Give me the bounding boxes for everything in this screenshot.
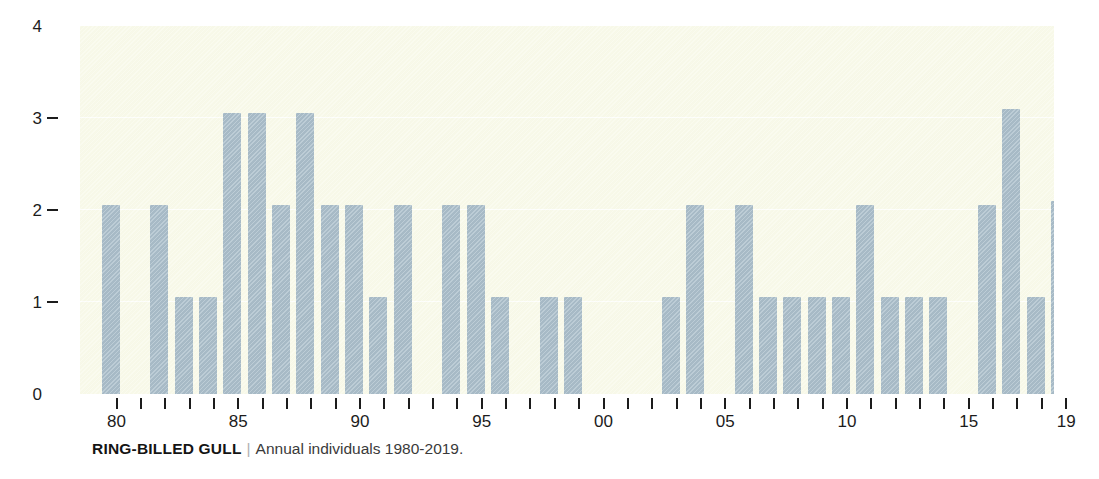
x-tick-mark-1985 — [237, 398, 239, 409]
bar-2010 — [832, 297, 850, 394]
bar-2012 — [881, 297, 899, 394]
x-tick-mark-1987 — [286, 398, 288, 409]
bar-1992 — [394, 205, 412, 394]
y-tick-label-0: 0 — [33, 386, 42, 403]
bar-1989 — [321, 205, 339, 394]
caption-separator: | — [242, 440, 256, 457]
x-tick-mark-2003 — [676, 398, 678, 409]
x-tick-mark-2000 — [603, 398, 605, 409]
bar-1982 — [150, 205, 168, 394]
bar-2009 — [808, 297, 826, 394]
x-tick-mark-1999 — [578, 398, 580, 409]
chart-caption: RING-BILLED GULL|Annual individuals 1980… — [92, 440, 463, 459]
x-tick-label-1995: 95 — [472, 413, 491, 430]
x-tick-mark-2008 — [797, 398, 799, 409]
x-tick-mark-1981 — [140, 398, 142, 409]
x-tick-label-2005: 05 — [716, 413, 735, 430]
bar-2008 — [783, 297, 801, 394]
x-tick-mark-2009 — [822, 398, 824, 409]
bar-2014 — [929, 297, 947, 394]
x-tick-mark-1988 — [310, 398, 312, 409]
x-tick-mark-2019 — [1065, 398, 1067, 409]
x-tick-mark-2015 — [968, 398, 970, 409]
bar-2003 — [662, 297, 680, 394]
x-tick-label-2019: 19 — [1057, 413, 1076, 430]
bar-2013 — [905, 297, 923, 394]
x-tick-mark-2013 — [919, 398, 921, 409]
bar-2006 — [735, 205, 753, 394]
chart-figure: 01234 808590950005101519 RING-BILLED GUL… — [0, 0, 1099, 479]
x-tick-mark-2002 — [651, 398, 653, 409]
x-tick-label-1990: 90 — [351, 413, 370, 430]
x-tick-mark-2005 — [724, 398, 726, 409]
x-tick-mark-1984 — [213, 398, 215, 409]
x-tick-mark-1994 — [456, 398, 458, 409]
x-tick-mark-2017 — [1016, 398, 1018, 409]
bar-1991 — [369, 297, 387, 394]
x-tick-mark-1983 — [189, 398, 191, 409]
x-tick-label-1985: 85 — [229, 413, 248, 430]
y-axis: 01234 — [0, 0, 80, 420]
x-tick-mark-2011 — [870, 398, 872, 409]
plot-area — [80, 26, 1054, 394]
x-tick-mark-1982 — [164, 398, 166, 409]
bar-1980 — [102, 205, 120, 394]
caption-subtitle: Annual individuals 1980-2019. — [256, 440, 464, 457]
bars-group — [80, 26, 1054, 394]
bar-1986 — [248, 113, 266, 394]
y-tick-mark-2 — [47, 209, 58, 211]
bar-2017 — [1002, 109, 1020, 394]
x-tick-mark-1992 — [408, 398, 410, 409]
x-tick-mark-1980 — [116, 398, 118, 409]
bar-2019 — [1051, 201, 1054, 394]
bar-1995 — [467, 205, 485, 394]
x-tick-mark-2014 — [943, 398, 945, 409]
y-tick-mark-1 — [47, 301, 58, 303]
x-tick-mark-2010 — [846, 398, 848, 409]
bar-1983 — [175, 297, 193, 394]
y-tick-label-3: 3 — [33, 110, 42, 127]
bar-1998 — [540, 297, 558, 394]
x-tick-mark-2012 — [895, 398, 897, 409]
y-tick-label-4: 4 — [33, 18, 42, 35]
x-tick-mark-2016 — [992, 398, 994, 409]
bar-1994 — [442, 205, 460, 394]
bar-1984 — [199, 297, 217, 394]
bar-1987 — [272, 205, 290, 394]
bar-2018 — [1027, 297, 1045, 394]
bar-2007 — [759, 297, 777, 394]
bar-1988 — [296, 113, 314, 394]
x-tick-label-2010: 10 — [838, 413, 857, 430]
x-tick-label-2000: 00 — [594, 413, 613, 430]
y-tick-mark-3 — [47, 117, 58, 119]
x-tick-mark-1998 — [554, 398, 556, 409]
bar-2011 — [856, 205, 874, 394]
x-tick-mark-2004 — [700, 398, 702, 409]
x-tick-mark-1989 — [335, 398, 337, 409]
x-tick-mark-1995 — [481, 398, 483, 409]
bar-1985 — [223, 113, 241, 394]
x-tick-mark-1990 — [359, 398, 361, 409]
bar-1996 — [491, 297, 509, 394]
x-axis: 808590950005101519 — [80, 394, 1054, 440]
x-tick-mark-2007 — [773, 398, 775, 409]
x-tick-label-1980: 80 — [107, 413, 126, 430]
bar-1999 — [564, 297, 582, 394]
bar-2016 — [978, 205, 996, 394]
x-tick-mark-2018 — [1041, 398, 1043, 409]
y-tick-label-1: 1 — [33, 294, 42, 311]
x-tick-mark-1993 — [432, 398, 434, 409]
x-tick-mark-1986 — [262, 398, 264, 409]
x-tick-mark-1997 — [529, 398, 531, 409]
x-tick-label-2015: 15 — [959, 413, 978, 430]
x-tick-mark-1991 — [383, 398, 385, 409]
y-tick-label-2: 2 — [33, 202, 42, 219]
bar-2004 — [686, 205, 704, 394]
species-name: RING-BILLED GULL — [92, 440, 242, 457]
x-tick-mark-2006 — [749, 398, 751, 409]
x-tick-mark-2001 — [627, 398, 629, 409]
x-tick-mark-1996 — [505, 398, 507, 409]
bar-1990 — [345, 205, 363, 394]
